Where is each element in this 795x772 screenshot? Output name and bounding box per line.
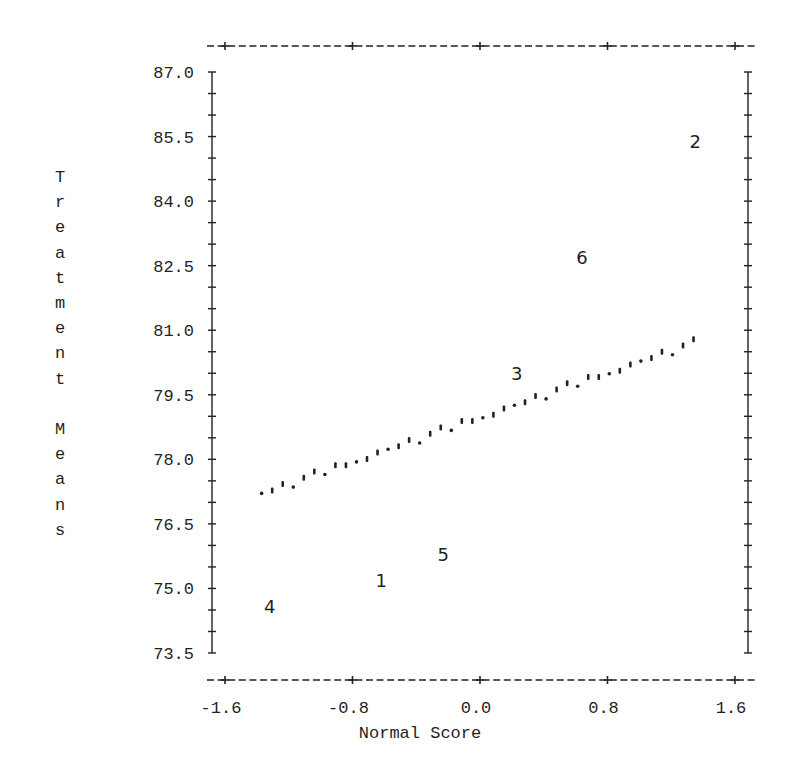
x-axis-ticks: -1.6-0.80.00.81.6 (201, 42, 747, 718)
reference-dot (345, 462, 348, 468)
y-tick-label: 75.0 (153, 580, 194, 599)
reference-dot (355, 460, 359, 464)
y-tick-label: 81.0 (153, 322, 194, 341)
reference-dot (629, 361, 632, 367)
reference-dot (323, 473, 327, 477)
reference-dot (408, 437, 411, 443)
y-tick-label: 82.5 (153, 258, 194, 277)
data-points: 123456 (264, 131, 701, 617)
reference-dot (418, 441, 422, 445)
x-tick-label: 1.6 (716, 699, 747, 718)
reference-dot (492, 412, 495, 418)
x-tick-label: -0.8 (328, 699, 369, 718)
reference-dot (461, 418, 464, 424)
reference-dot (271, 487, 274, 493)
y-axis-label-letter: M (48, 420, 72, 439)
x-tick-label: 0.0 (461, 699, 492, 718)
reference-dot (503, 406, 506, 412)
reference-dot (386, 448, 390, 452)
x-axis-label: Normal Score (359, 724, 481, 743)
reference-dot (587, 374, 590, 380)
y-axis-label-letter: a (48, 470, 72, 489)
y-axis-ticks: 87.085.584.082.581.079.578.076.575.073.5 (153, 64, 194, 664)
reference-dot (650, 355, 653, 361)
y-tick-label: 78.0 (153, 451, 194, 470)
reference-dot (566, 380, 569, 386)
y-tick-label: 85.5 (153, 129, 194, 148)
reference-dot (439, 424, 442, 430)
x-tick-label: 0.8 (588, 699, 619, 718)
reference-dot (376, 450, 379, 456)
reference-dot (366, 456, 369, 462)
reference-dot (619, 368, 622, 374)
reference-dot (397, 443, 400, 449)
y-axis-label-letter: e (48, 218, 72, 237)
normal-probability-plot: 87.085.584.082.581.079.578.076.575.073.5… (0, 0, 795, 772)
data-point-5: 5 (438, 544, 449, 565)
y-axis-label-letter: T (48, 168, 72, 187)
reference-dot (524, 399, 527, 405)
y-axis-label-letter: e (48, 445, 72, 464)
reference-dot (534, 393, 537, 399)
y-axis-label-letter: t (48, 269, 72, 288)
y-axis-label-letter: s (48, 521, 72, 540)
reference-dot (555, 387, 558, 393)
reference-dot (692, 336, 695, 342)
reference-dot (449, 429, 453, 433)
reference-dot (597, 374, 600, 380)
reference-dot (313, 469, 316, 475)
reference-dot (334, 462, 337, 468)
plot-frame (207, 46, 757, 680)
reference-dot (576, 385, 580, 389)
reference-dot (607, 372, 611, 376)
reference-dot (682, 343, 685, 349)
reference-dot (639, 359, 643, 363)
data-point-4: 4 (264, 596, 275, 617)
reference-dot (513, 403, 517, 407)
data-point-3: 3 (511, 363, 522, 384)
y-tick-label: 87.0 (153, 64, 194, 83)
reference-dot (544, 397, 548, 401)
y-axis-label-letter: m (48, 294, 72, 313)
reference-dot (429, 431, 432, 437)
y-axis-label-letter: a (48, 244, 72, 263)
y-tick-label: 73.5 (153, 645, 194, 664)
y-axis-label-letter: n (48, 496, 72, 515)
reference-dot (661, 349, 664, 355)
reference-dot (671, 353, 675, 357)
reference-dot (260, 492, 264, 496)
y-tick-label: 79.5 (153, 387, 194, 406)
data-point-1: 1 (375, 570, 386, 591)
reference-line (260, 336, 695, 495)
reference-dot (481, 416, 485, 420)
reference-dot (471, 418, 474, 424)
y-axis-label-letter: e (48, 319, 72, 338)
data-point-6: 6 (576, 247, 587, 268)
y-axis-label-letter: t (48, 370, 72, 389)
reference-dot (302, 475, 305, 481)
data-point-2: 2 (689, 131, 700, 152)
y-axis-label-letter: n (48, 344, 72, 363)
x-tick-label: -1.6 (201, 699, 242, 718)
y-tick-label: 84.0 (153, 193, 194, 212)
y-tick-label: 76.5 (153, 516, 194, 535)
reference-dot (291, 485, 295, 489)
reference-dot (281, 481, 284, 487)
y-axis-label-letter: r (48, 193, 72, 212)
